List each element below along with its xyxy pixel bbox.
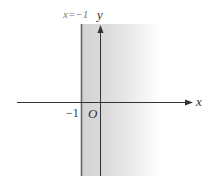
diagram: x=−1 y x −1 O [0,0,213,184]
tick-label-minus-one: −1 [66,106,79,120]
x-axis-arrow-icon [185,100,193,106]
boundary-line-label: x=−1 [62,8,88,20]
shaded-region [81,24,161,176]
origin-label: O [88,106,98,121]
y-axis-label: y [95,7,103,22]
x-axis-label: x [195,94,202,109]
